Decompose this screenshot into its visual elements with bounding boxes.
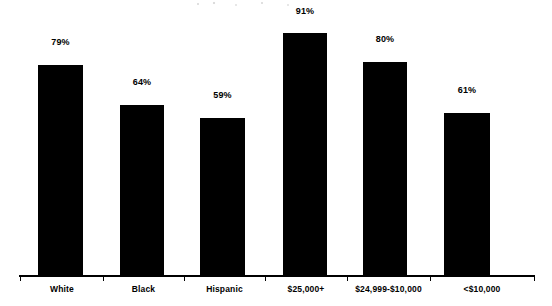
x-axis-tick-2	[184, 276, 185, 281]
bar-chart: 79% 64% 59% 91% 80% 61% White Black Hisp…	[0, 0, 552, 306]
bar-value-label-hispanic: 59%	[200, 90, 245, 100]
x-axis-label-income-under-10000: <$10,000	[430, 284, 534, 294]
bar-hispanic	[200, 118, 245, 275]
x-axis-label-black: Black	[103, 284, 184, 294]
bar-income-under-10000	[444, 113, 490, 275]
x-axis-label-income-24999-10000: $24,999-$10,000	[347, 284, 430, 294]
x-axis-line	[19, 275, 535, 277]
x-axis-tick-end	[534, 276, 535, 281]
x-axis-tick-start	[20, 276, 21, 281]
bar-income-24999-10000	[363, 62, 407, 275]
bar-white	[38, 65, 83, 275]
x-axis-tick-3	[265, 276, 266, 281]
x-axis-tick-5	[430, 276, 431, 281]
x-axis-label-white: White	[22, 284, 102, 294]
bar-value-label-income-25000-plus: 91%	[283, 6, 327, 16]
x-axis-tick-4	[347, 276, 348, 281]
bar-value-label-income-24999-10000: 80%	[363, 34, 407, 44]
bar-income-25000-plus	[283, 33, 327, 275]
bar-black	[120, 105, 164, 275]
x-axis-label-income-25000-plus: $25,000+	[265, 284, 347, 294]
bar-value-label-white: 79%	[38, 37, 83, 47]
x-axis-tick-1	[103, 276, 104, 281]
bar-value-label-income-under-10000: 61%	[444, 85, 490, 95]
plot-area: 79% 64% 59% 91% 80% 61% White Black Hisp…	[0, 0, 552, 306]
bar-value-label-black: 64%	[120, 77, 164, 87]
x-axis-label-hispanic: Hispanic	[184, 284, 265, 294]
